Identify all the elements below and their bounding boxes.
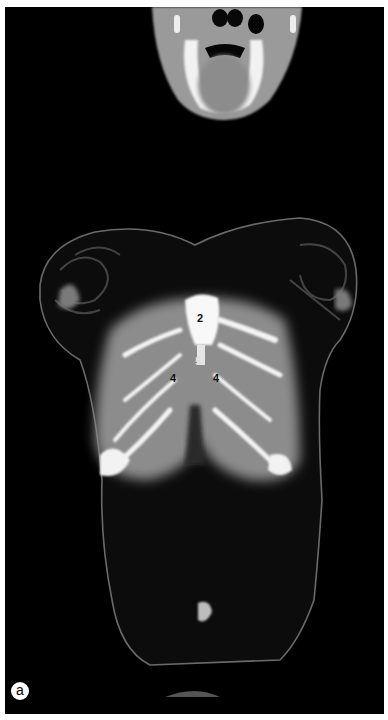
anatomical-label-5: 5 (195, 356, 201, 367)
anatomical-label-4-right: 4 (213, 373, 219, 384)
head-slice (152, 7, 302, 120)
panel-letter-badge: a (11, 682, 29, 700)
ct-image-panel: 2 5 4 4 (5, 7, 384, 714)
anatomical-label-4-left: 4 (170, 373, 176, 384)
torso-slice (40, 218, 357, 697)
anatomical-label-2: 2 (197, 313, 203, 324)
